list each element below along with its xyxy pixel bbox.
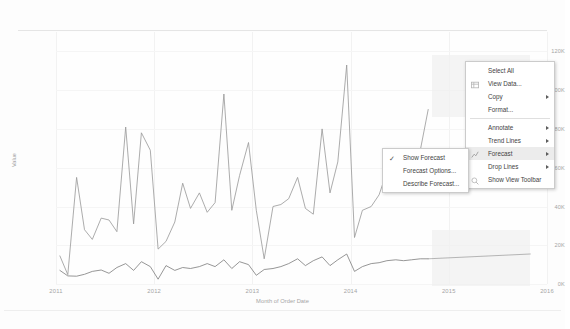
chevron-right-icon	[546, 95, 549, 99]
x-axis-tick-label: 2016	[524, 288, 570, 294]
submenu-item-forecast-options[interactable]: Forecast Options...	[383, 164, 468, 177]
menu-item-annotate[interactable]: Annotate	[466, 121, 554, 134]
forecast-confidence-band	[432, 230, 530, 286]
chevron-right-icon	[546, 165, 549, 169]
menu-item-show-view-toolbar[interactable]: Show View Toolbar	[466, 173, 554, 186]
forecast-submenu[interactable]: ✓Show ForecastForecast Options...Describ…	[382, 148, 469, 193]
gridline-vertical	[252, 32, 253, 284]
menu-item-label: Forecast	[488, 150, 513, 157]
menu-item-label: Trend Lines	[488, 137, 521, 144]
x-axis-tick-label: 2013	[229, 288, 275, 294]
x-axis-tick-label: 2012	[131, 288, 177, 294]
menu-item-format[interactable]: Format...	[466, 103, 554, 116]
submenu-item-describe-forecast[interactable]: Describe Forecast...	[383, 177, 468, 190]
menu-item-label: View Data...	[488, 80, 522, 87]
menu-item-label: Drop Lines	[488, 163, 518, 170]
gridline-vertical	[154, 32, 155, 284]
menu-item-trend-lines[interactable]: Trend Lines	[466, 134, 554, 147]
gridline-horizontal	[56, 207, 547, 208]
x-axis-tick-label: 2011	[33, 288, 79, 294]
menu-item-label: Show View Toolbar	[488, 176, 541, 183]
menu-item-view-data[interactable]: View Data...	[466, 77, 554, 90]
menu-item-copy[interactable]: Copy	[466, 90, 554, 103]
x-axis-tick-label: 2014	[328, 288, 374, 294]
y-axis-tick-label: 120K	[515, 48, 565, 54]
menu-separator	[470, 118, 550, 119]
search-icon	[471, 176, 479, 184]
x-axis-title: Month of Order Date	[0, 298, 565, 304]
y-axis-tick-label: 40K	[515, 204, 565, 210]
y-axis-title: Value	[11, 153, 17, 167]
submenu-item-label: Show Forecast	[403, 154, 445, 161]
checkmark-icon: ✓	[389, 154, 395, 161]
menu-item-label: Select All	[488, 67, 514, 74]
chevron-right-icon	[546, 152, 549, 156]
submenu-item-label: Forecast Options...	[403, 167, 456, 174]
gridline-vertical	[351, 32, 352, 284]
chevron-right-icon	[546, 139, 549, 143]
gridline-horizontal	[56, 51, 547, 52]
menu-item-forecast[interactable]: Forecast	[466, 147, 554, 160]
chart-context-menu[interactable]: Select AllView Data...CopyFormat...Annot…	[465, 61, 555, 189]
menu-item-select-all[interactable]: Select All	[466, 64, 554, 77]
submenu-item-label: Describe Forecast...	[403, 180, 459, 187]
forecast-icon	[471, 150, 479, 158]
menu-item-label: Copy	[488, 93, 503, 100]
y-axis-tick-label: 0K	[515, 281, 565, 287]
x-axis-tick-label: 2015	[426, 288, 472, 294]
viz-bottom-divider	[4, 310, 561, 311]
table-icon	[471, 80, 479, 88]
menu-item-drop-lines[interactable]: Drop Lines	[466, 160, 554, 173]
menu-item-label: Format...	[488, 106, 513, 113]
gridline-vertical	[56, 32, 57, 284]
chevron-right-icon	[546, 126, 549, 130]
y-axis-tick-label: 20K	[515, 242, 565, 248]
viz-top-divider	[18, 30, 547, 31]
submenu-item-show-forecast[interactable]: ✓Show Forecast	[383, 151, 468, 164]
menu-item-label: Annotate	[488, 124, 513, 131]
